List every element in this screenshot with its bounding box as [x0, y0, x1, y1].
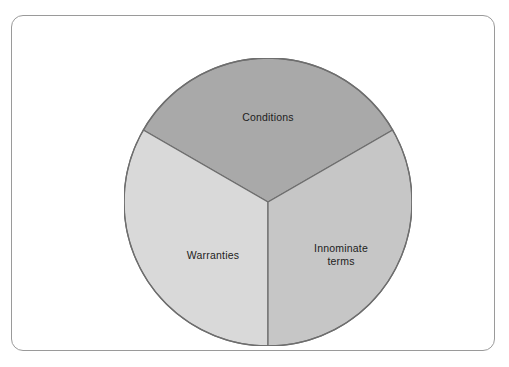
- figure-frame-border: Conditions Warranties Innominate terms: [11, 15, 495, 351]
- pie-chart: Conditions Warranties Innominate terms: [124, 58, 412, 346]
- pie-slices: [124, 58, 412, 346]
- pie-chart-svg: [124, 58, 412, 346]
- figure-root: Conditions Warranties Innominate terms: [0, 0, 509, 367]
